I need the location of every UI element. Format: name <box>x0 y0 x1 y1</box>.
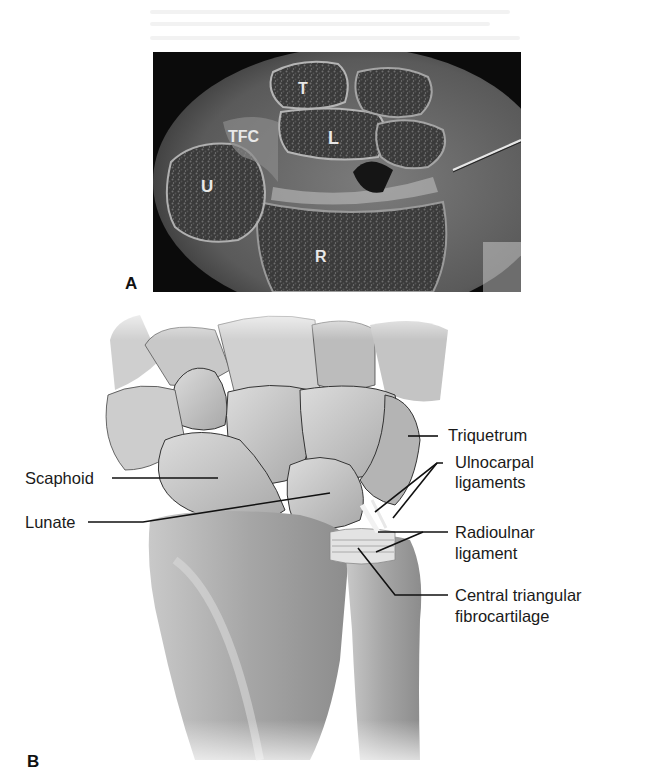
callout-central-line2: fibrocartilage <box>455 606 549 627</box>
label-lunate: L <box>328 128 339 148</box>
callout-radioulnar-line2: ligament <box>455 543 517 564</box>
callout-triquetrum: Triquetrum <box>448 425 527 446</box>
label-t: T <box>298 80 308 97</box>
callout-radioulnar-line1: Radioulnar <box>455 522 535 543</box>
wrist-section-photo: T TFC L U R <box>153 52 521 292</box>
wrist-bones-illustration <box>0 300 652 777</box>
callout-scaphoid: Scaphoid <box>25 468 94 489</box>
callout-lunate: Lunate <box>25 512 75 533</box>
label-tfc: TFC <box>228 128 260 145</box>
panel-b-illustration: Triquetrum Ulnocarpal ligaments Scaphoid… <box>0 300 652 777</box>
panel-a-photo: T TFC L U R <box>153 52 521 292</box>
label-radius: R <box>315 248 327 265</box>
panel-b-letter: B <box>27 752 39 772</box>
label-ulna: U <box>201 177 213 196</box>
panel-a-letter: A <box>125 274 137 294</box>
bleed-through-text <box>0 0 652 52</box>
callout-central-line1: Central triangular <box>455 585 582 606</box>
callout-ulnocarpal-line2: ligaments <box>455 472 526 493</box>
callout-ulnocarpal-line1: Ulnocarpal <box>455 452 534 473</box>
